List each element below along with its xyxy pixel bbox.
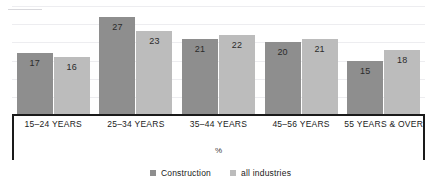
bar-construction-4: 15 (347, 61, 383, 116)
legend-label: Construction (161, 168, 211, 178)
axis-unit-label: % (12, 146, 425, 155)
legend-item-0[interactable]: Construction (150, 168, 211, 178)
bar-value-label: 22 (219, 40, 255, 50)
bar-construction-2: 21 (182, 39, 218, 115)
bar-construction-0: 17 (17, 53, 53, 115)
bar-all-industries-4: 18 (384, 50, 420, 115)
chart-legend: Constructionall industries (0, 168, 441, 178)
bar-construction-3: 20 (265, 42, 301, 115)
legend-label: all industries (241, 168, 291, 178)
bar-value-label: 21 (182, 44, 218, 54)
bar-value-label: 20 (265, 47, 301, 57)
category-label-4: 55 YEARS & OVER (342, 119, 425, 130)
bar-value-label: 18 (384, 55, 420, 65)
category-labels: 15–24 YEARS25–34 YEARS35–44 YEARS45–56 Y… (12, 119, 425, 145)
category-label-0: 15–24 YEARS (12, 119, 95, 130)
bar-value-label: 21 (302, 44, 338, 54)
bar-value-label: 27 (99, 22, 135, 32)
category-label-1: 25–34 YEARS (95, 119, 178, 130)
legend-item-1[interactable]: all industries (230, 168, 291, 178)
category-label-3: 45–56 YEARS (260, 119, 343, 130)
bar-all-industries-1: 23 (136, 31, 172, 115)
bar-construction-1: 27 (99, 17, 135, 115)
category-label-2: 35–44 YEARS (177, 119, 260, 130)
bar-all-industries-3: 21 (302, 39, 338, 115)
legend-swatch-icon (230, 170, 236, 176)
plot-area: 17162723212220211518 (12, 6, 425, 115)
bars-layer: 17162723212220211518 (12, 6, 425, 115)
bar-all-industries-0: 16 (54, 57, 90, 115)
legend-swatch-icon (150, 170, 156, 176)
bar-value-label: 23 (136, 36, 172, 46)
bar-all-industries-2: 22 (219, 35, 255, 115)
bar-value-label: 15 (347, 66, 383, 76)
bar-chart: 17162723212220211518 15–24 YEARS25–34 YE… (0, 0, 441, 189)
bar-value-label: 16 (54, 62, 90, 72)
bar-value-label: 17 (17, 58, 53, 68)
